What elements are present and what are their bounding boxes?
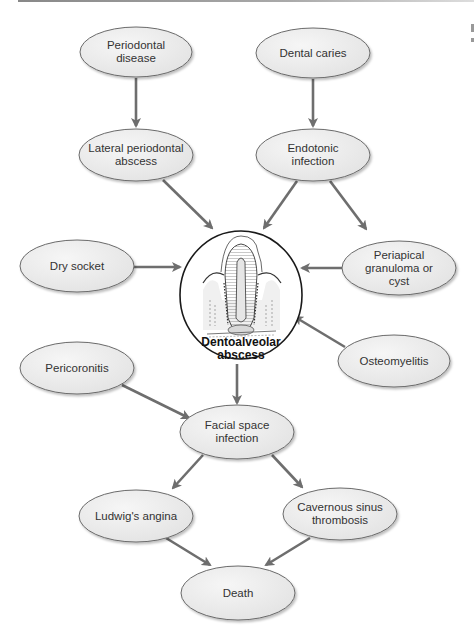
edge-ludwig-to-death [166, 538, 210, 565]
edge-osteomyelitis-to-dentoalveolar [295, 317, 345, 347]
node-death [181, 566, 295, 620]
node-cavernous-sinus-thrombosis [283, 488, 397, 540]
node-dental-caries [256, 28, 370, 78]
node-lateral-periodontal-abscess [79, 129, 193, 181]
label-dentoalveolar-abscess: Dentoalveolar abscess [201, 336, 280, 362]
edge-pericoronitis-to-facial [122, 385, 189, 418]
edge-endotonic-to-periapical [330, 181, 366, 229]
node-periapical-granuloma [342, 241, 456, 295]
edge-facial-to-ludwig [173, 455, 203, 488]
flowchart-canvas [0, 0, 474, 633]
node-periodontal-disease [80, 27, 192, 77]
node-pericoronitis [20, 342, 134, 394]
edge-endotonic-to-dentoalveolar [264, 181, 297, 228]
node-endotonic-infection [256, 129, 370, 181]
edge-facial-to-cavernous [272, 455, 302, 487]
node-facial-space-infection [180, 405, 294, 459]
node-ludwigs-angina [79, 490, 193, 542]
edge-lateral-to-dentoalveolar [163, 180, 212, 228]
node-dry-socket [20, 240, 134, 292]
edge-cavernous-to-death [266, 538, 310, 565]
node-osteomyelitis [338, 335, 450, 387]
